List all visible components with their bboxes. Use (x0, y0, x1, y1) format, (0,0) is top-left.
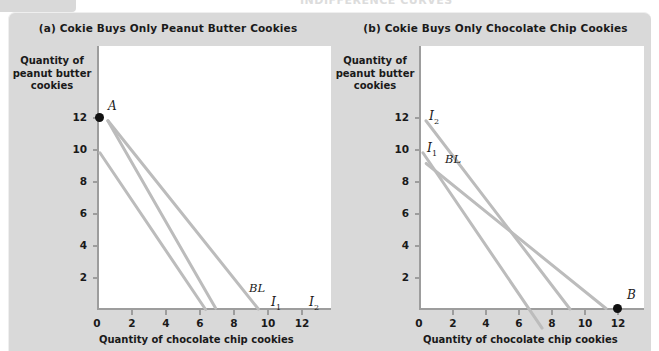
panel-b-xtick-label-10: 10 (574, 317, 596, 329)
panel-a-ytick-8 (93, 181, 98, 183)
panel-b-xtick-label-12: 12 (607, 317, 629, 329)
panel-a-point-a-label: A (108, 99, 117, 113)
panel-b-xtick-8 (551, 310, 553, 315)
panel-a-ytick-label-12: 12 (65, 111, 87, 123)
panel-b-ytick-label-8: 8 (387, 175, 409, 187)
panel-a: (a) Cokie Buys Only Peanut Butter Cookie… (9, 13, 339, 351)
panel-a-ytick-4 (93, 245, 98, 247)
panel-b-xtick-4 (485, 310, 487, 315)
panel-b-xtick-label-0: 0 (408, 317, 430, 329)
panel-b-xtick-label-2: 2 (442, 317, 464, 329)
panel-a-ytick-label-10: 10 (65, 143, 87, 155)
panel-b-ytick-label-10: 10 (387, 143, 409, 155)
panel-a-xtick-12 (301, 310, 303, 315)
panel-b-xtick-label-4: 4 (475, 317, 497, 329)
panel-b-y-axis-label: Quantity of peanut butter cookies (329, 55, 421, 93)
panel-b-ytick-6 (415, 213, 420, 215)
panel-b-point-b-dot (613, 304, 622, 313)
panel-b-ytick-label-12: 12 (387, 111, 409, 123)
panel-b-xtick-label-6: 6 (508, 317, 530, 329)
panel-b-y-axis (419, 46, 421, 310)
panel-a-xtick-8 (233, 310, 235, 315)
top-strip-left-bump (0, 0, 76, 12)
panel-b-ytick-label-4: 4 (387, 239, 409, 251)
panel-a-ytick-label-2: 2 (65, 271, 87, 283)
panel-a-ytick-10 (93, 149, 98, 151)
panel-b-ytick-4 (415, 245, 420, 247)
panel-b-ytick-label-6: 6 (387, 207, 409, 219)
panel-a-xtick-label-10: 10 (257, 317, 279, 329)
panel-b-xtick-10 (584, 310, 586, 315)
panel-a-xtick-label-8: 8 (223, 317, 245, 329)
panel-a-i2-label: I2 (309, 294, 319, 312)
panel-b: (b) Cokie Buys Only Chocolate Chip Cooki… (331, 13, 651, 351)
panel-b-xtick-6 (518, 310, 520, 315)
panel-a-xtick-4 (165, 310, 167, 315)
panel-a-plot-area (97, 46, 331, 308)
panel-a-ytick-label-4: 4 (65, 239, 87, 251)
panel-b-ytick-label-2: 2 (387, 271, 409, 283)
panel-a-i2-sub: 2 (314, 303, 319, 312)
panel-a-xtick-label-4: 4 (155, 317, 177, 329)
panel-a-i1-sub: 1 (276, 303, 281, 312)
panel-b-x-axis-label: Quantity of chocolate chip cookies (423, 334, 618, 345)
panel-b-ytick-8 (415, 181, 420, 183)
panel-a-bl-label: BL (249, 281, 265, 295)
panel-b-ytick-10 (415, 149, 420, 151)
panel-a-xtick-label-0: 0 (86, 317, 108, 329)
panel-b-ytick-2 (415, 277, 420, 279)
panel-b-plot-area (419, 46, 644, 308)
panel-a-y-axis (97, 46, 99, 310)
figure-container: (a) Cokie Buys Only Peanut Butter Cookie… (8, 12, 651, 351)
panel-b-i2-label: I2 (429, 108, 439, 126)
panel-b-i1-label: I1 (427, 140, 437, 158)
panel-a-y-axis-label: Quantity of peanut butter cookies (8, 55, 98, 93)
panel-b-i2-sub: 2 (434, 117, 439, 126)
panel-a-point-a-dot (95, 113, 104, 122)
panel-b-title: (b) Cokie Buys Only Chocolate Chip Cooki… (335, 22, 651, 34)
panel-a-bl-text: BL (249, 281, 265, 295)
panel-b-xtick-2 (452, 310, 454, 315)
panel-a-ytick-label-8: 8 (65, 175, 87, 187)
panel-a-ytick-label-6: 6 (65, 207, 87, 219)
panel-a-ytick-6 (93, 213, 98, 215)
panel-b-xtick-label-8: 8 (541, 317, 563, 329)
panel-a-xtick-label-6: 6 (189, 317, 211, 329)
panel-a-xtick-label-2: 2 (121, 317, 143, 329)
panel-a-xtick-label-12: 12 (291, 317, 313, 329)
top-clipped-heading: INDIFFERENCE CURVES (300, 0, 453, 6)
panel-a-ytick-2 (93, 277, 98, 279)
panel-a-title: (a) Cokie Buys Only Peanut Butter Cookie… (8, 22, 333, 34)
top-clipped-strip: INDIFFERENCE CURVES (0, 0, 659, 12)
panel-a-xtick-6 (199, 310, 201, 315)
panel-b-point-b-label: B (627, 288, 636, 302)
panel-a-xtick-2 (131, 310, 133, 315)
panel-a-i1-label: I1 (271, 294, 281, 312)
panel-b-ytick-12 (415, 117, 420, 119)
panel-a-xtick-10 (267, 310, 269, 315)
panel-b-bl-text: BL (445, 152, 461, 166)
panel-b-i1-sub: 1 (432, 149, 437, 158)
panel-a-x-axis-label: Quantity of chocolate chip cookies (99, 334, 294, 345)
panel-b-bl-label: BL (445, 152, 461, 166)
